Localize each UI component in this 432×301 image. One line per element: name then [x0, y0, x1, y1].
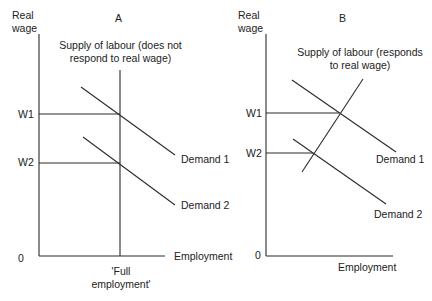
- panel-b-title: B: [339, 12, 346, 25]
- panel-b-y-axis-label: Real wage: [238, 9, 263, 35]
- panel-b-demand-1-label: Demand 1: [376, 153, 424, 166]
- y-axis-label-line2: wage: [12, 22, 37, 35]
- panel-b-demand-1-curve: [292, 80, 396, 152]
- full-employment-line1: 'Full: [86, 265, 156, 278]
- panel-b-supply-label: Supply of labour (responds to real wage): [295, 46, 425, 72]
- full-employment-line2: employment': [86, 278, 156, 291]
- supply-label-line1: Supply of labour (responds: [295, 46, 425, 59]
- panel-a-w1-label: W1: [18, 108, 34, 121]
- panel-a-full-employment-label: 'Full employment': [86, 265, 156, 291]
- panel-b-origin-label: 0: [255, 249, 261, 262]
- panel-a-demand-1-label: Demand 1: [181, 153, 229, 166]
- y-axis-label-line1: Real: [238, 9, 263, 22]
- panel-b-demand-2-curve: [293, 139, 386, 204]
- panel-b-w1-label: W1: [246, 107, 262, 120]
- supply-label-line2: to real wage): [295, 59, 425, 72]
- panel-a-supply-label: Supply of labour (does not respond to re…: [58, 39, 183, 65]
- y-axis-label-line2: wage: [238, 22, 263, 35]
- panel-a-x-axis-label: Employment: [174, 250, 232, 263]
- panel-a-origin-label: 0: [18, 252, 24, 265]
- supply-label-line1: Supply of labour (does not: [58, 39, 183, 52]
- panel-a-demand-1-curve: [81, 87, 175, 155]
- panel-b-x-axis-label: Employment: [338, 261, 396, 274]
- panel-a-demand-2-curve: [83, 137, 175, 205]
- supply-label-line2: respond to real wage): [58, 52, 183, 65]
- y-axis-label-line1: Real: [12, 9, 37, 22]
- panel-a-demand-2-label: Demand 2: [181, 199, 229, 212]
- panel-b-demand-2-label: Demand 2: [374, 208, 422, 221]
- panel-b-w2-label: W2: [246, 147, 262, 160]
- panel-a-y-axis-label: Real wage: [12, 9, 37, 35]
- panel-a-title: A: [115, 12, 122, 25]
- panel-a-w2-label: W2: [18, 156, 34, 169]
